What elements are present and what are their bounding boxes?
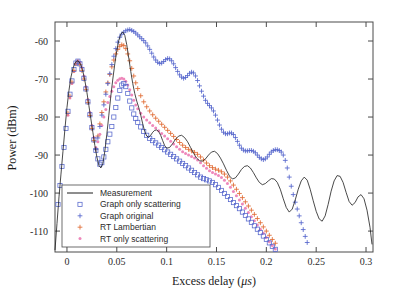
x-axis-title: Excess delay (μs) bbox=[172, 274, 256, 288]
marker-plus bbox=[156, 119, 161, 124]
marker-dot bbox=[229, 186, 232, 189]
marker-square bbox=[204, 178, 208, 182]
marker-plus bbox=[105, 81, 110, 86]
marker-plus bbox=[295, 207, 300, 212]
marker-plus bbox=[165, 128, 170, 133]
marker-square bbox=[116, 96, 120, 100]
marker-square bbox=[132, 112, 136, 116]
marker-dot bbox=[166, 137, 169, 140]
x-tick-label: 0.05 bbox=[108, 256, 126, 267]
marker-dot bbox=[178, 148, 181, 151]
x-tick-label: 0.25 bbox=[307, 256, 325, 267]
chart-figure: -60-70-80-90-100-110 00.050.10.150.20.25… bbox=[0, 0, 397, 291]
marker-square bbox=[207, 179, 211, 183]
marker-square bbox=[110, 124, 114, 128]
y-tick-label: -80 bbox=[35, 112, 48, 123]
marker-square bbox=[201, 177, 205, 181]
marker-dot bbox=[148, 121, 151, 124]
marker-plus bbox=[215, 118, 220, 123]
y-tick-label: -110 bbox=[30, 226, 48, 237]
marker-dot bbox=[79, 237, 82, 240]
marker-dot bbox=[235, 194, 238, 197]
x-tick-label: 0.3 bbox=[360, 256, 373, 267]
legend-label: Graph only scattering bbox=[100, 199, 181, 209]
marker-dot bbox=[208, 169, 211, 172]
marker-square bbox=[219, 188, 223, 192]
marker-dot bbox=[220, 176, 223, 179]
marker-square bbox=[130, 106, 134, 110]
marker-plus bbox=[147, 109, 152, 114]
marker-square bbox=[118, 88, 122, 92]
marker-dot bbox=[128, 88, 131, 91]
marker-dot bbox=[104, 108, 107, 111]
marker-plus bbox=[138, 93, 143, 98]
marker-dot bbox=[244, 207, 247, 210]
marker-plus bbox=[289, 184, 294, 189]
marker-plus bbox=[283, 158, 288, 163]
marker-dot bbox=[122, 78, 125, 81]
marker-plus bbox=[204, 161, 209, 166]
marker-dot bbox=[175, 145, 178, 148]
marker-dot bbox=[241, 203, 244, 206]
marker-plus bbox=[109, 62, 114, 67]
marker-square bbox=[222, 191, 226, 195]
marker-plus bbox=[199, 89, 204, 94]
marker-square bbox=[114, 105, 118, 109]
marker-dot bbox=[184, 152, 187, 155]
marker-square bbox=[216, 185, 220, 189]
y-axis-title: Power (dBm) bbox=[5, 106, 19, 171]
marker-dot bbox=[96, 140, 99, 143]
marker-dot bbox=[169, 140, 172, 143]
marker-dot bbox=[114, 81, 117, 84]
marker-square bbox=[104, 147, 108, 151]
chart-legend: MeasurementGraph only scatteringGraph or… bbox=[62, 185, 210, 247]
legend-label: Measurement bbox=[100, 188, 153, 198]
marker-square bbox=[228, 197, 232, 201]
marker-dot bbox=[154, 127, 157, 130]
marker-dot bbox=[214, 173, 217, 176]
y-tick-label: -60 bbox=[35, 36, 48, 47]
marker-plus bbox=[107, 71, 112, 76]
marker-plus bbox=[159, 122, 164, 127]
marker-square bbox=[112, 115, 116, 119]
y-tick-label: -90 bbox=[35, 150, 48, 161]
marker-dot bbox=[98, 133, 101, 136]
marker-square bbox=[234, 204, 238, 208]
legend-label: RT Lambertian bbox=[100, 222, 156, 232]
marker-plus bbox=[133, 80, 138, 85]
marker-plus bbox=[305, 240, 310, 245]
marker-dot bbox=[142, 116, 145, 119]
marker-square bbox=[128, 99, 132, 103]
marker-plus bbox=[297, 213, 302, 218]
marker-plus bbox=[141, 99, 146, 104]
marker-dot bbox=[151, 124, 154, 127]
legend-label: Graph original bbox=[100, 211, 154, 221]
marker-plus bbox=[101, 102, 106, 107]
marker-dot bbox=[211, 171, 214, 174]
x-tick-label: 0.2 bbox=[260, 256, 273, 267]
marker-plus bbox=[303, 234, 308, 239]
marker-square bbox=[139, 125, 143, 129]
y-tick-label: -70 bbox=[35, 74, 48, 85]
marker-plus bbox=[195, 78, 200, 83]
marker-plus bbox=[285, 166, 290, 171]
marker-plus bbox=[213, 113, 218, 118]
marker-square bbox=[108, 132, 112, 136]
marker-dot bbox=[163, 135, 166, 138]
marker-dot bbox=[134, 103, 137, 106]
marker-plus bbox=[222, 172, 227, 177]
marker-plus bbox=[287, 175, 292, 180]
marker-dot bbox=[217, 174, 220, 177]
marker-dot bbox=[106, 101, 109, 104]
marker-plus bbox=[291, 192, 296, 197]
marker-dot bbox=[226, 182, 229, 185]
marker-square bbox=[126, 91, 130, 95]
marker-plus bbox=[197, 83, 202, 88]
marker-dot bbox=[190, 155, 193, 158]
marker-dot bbox=[223, 179, 226, 182]
marker-plus bbox=[198, 155, 203, 160]
marker-plus bbox=[162, 125, 167, 130]
marker-plus bbox=[299, 220, 304, 225]
marker-dot bbox=[187, 154, 190, 157]
marker-plus bbox=[103, 92, 108, 97]
